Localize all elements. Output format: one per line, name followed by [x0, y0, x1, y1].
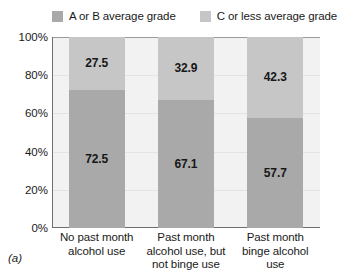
y-tick-label: 20%	[0, 184, 48, 196]
chart-legend: A or B average grade C or less average g…	[52, 5, 333, 27]
legend-swatch-c-or-less	[200, 11, 211, 22]
bar-value-label: 72.5	[85, 152, 108, 166]
bar-past-month-alcohol-use-not-binge[interactable]: 32.9 67.1	[158, 37, 214, 228]
y-tick-label: 80%	[0, 69, 48, 81]
bar-segment-a-or-b[interactable]: 72.5	[69, 90, 125, 228]
bar-value-label: 32.9	[174, 61, 197, 75]
x-category-line: Past month	[231, 231, 320, 245]
legend-label-a-or-b: A or B average grade	[69, 10, 176, 22]
legend-label-c-or-less: C or less average grade	[217, 10, 337, 22]
bar-segment-a-or-b[interactable]: 57.7	[247, 118, 303, 228]
bar-value-label: 42.3	[264, 70, 287, 84]
x-category-line: use	[231, 258, 320, 272]
bar-no-past-month-alcohol-use[interactable]: 27.5 72.5	[69, 37, 125, 228]
legend-swatch-a-or-b	[52, 11, 63, 22]
x-category-label-no-past-month-alcohol-use: No past month alcohol use	[52, 231, 141, 258]
bar-segment-c-or-less[interactable]: 42.3	[247, 37, 303, 118]
x-category-line: No past month	[52, 231, 141, 245]
legend-item-a-or-b: A or B average grade	[52, 10, 176, 22]
x-category-label-past-month-alcohol-use-not-binge: Past month alcohol use, but not binge us…	[141, 231, 230, 272]
bar-segment-c-or-less[interactable]: 32.9	[158, 37, 214, 100]
y-tick-label: 0%	[0, 222, 48, 234]
x-category-line: not binge use	[141, 258, 230, 272]
bar-value-label: 27.5	[85, 56, 108, 70]
x-category-line: binge alcohol	[231, 245, 320, 259]
x-category-label-past-month-binge-alcohol-use: Past month binge alcohol use	[231, 231, 320, 272]
plot-area: 27.5 72.5 32.9 67.1 42.3	[52, 37, 320, 228]
y-tick-label: 60%	[0, 107, 48, 119]
bar-slot-past-month-binge-alcohol-use: 42.3 57.7	[231, 37, 320, 228]
x-category-line: Past month	[141, 231, 230, 245]
figure-caption: (a)	[8, 252, 22, 264]
bar-value-label: 67.1	[174, 157, 197, 171]
y-tick-label: 40%	[0, 146, 48, 158]
bar-slot-past-month-alcohol-use-not-binge: 32.9 67.1	[141, 37, 230, 228]
bar-segment-a-or-b[interactable]: 67.1	[158, 100, 214, 228]
y-tick-label: 100%	[0, 31, 48, 43]
x-category-line: alcohol use	[52, 245, 141, 259]
x-axis: No past month alcohol use Past month alc…	[52, 231, 320, 276]
bar-past-month-binge-alcohol-use[interactable]: 42.3 57.7	[247, 37, 303, 228]
legend-item-c-or-less: C or less average grade	[200, 10, 337, 22]
bar-segment-c-or-less[interactable]: 27.5	[69, 37, 125, 90]
y-axis: 100% 80% 60% 40% 20% 0%	[0, 37, 48, 228]
bar-value-label: 57.7	[264, 166, 287, 180]
bar-slot-no-past-month-alcohol-use: 27.5 72.5	[52, 37, 141, 228]
x-category-line: alcohol use, but	[141, 245, 230, 259]
